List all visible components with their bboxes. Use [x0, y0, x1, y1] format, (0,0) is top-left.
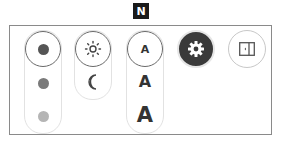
font-size-small-button[interactable]: A	[127, 31, 163, 67]
light-mode-button[interactable]	[75, 31, 111, 67]
shortcut-badge: N	[133, 3, 149, 19]
sun-icon	[84, 40, 102, 58]
moon-icon	[85, 73, 101, 91]
font-size-medium-button[interactable]: A	[127, 64, 163, 100]
settings-button[interactable]	[177, 30, 215, 68]
font-size-small-label: A	[141, 44, 150, 55]
color-dot-light	[38, 111, 49, 122]
font-size-large-label: A	[137, 105, 153, 126]
color-option-medium[interactable]	[25, 65, 61, 101]
sidebar-toggle-button[interactable]	[228, 30, 266, 68]
gear-icon	[187, 40, 205, 58]
dark-mode-button[interactable]	[75, 64, 111, 100]
color-dot-dark	[38, 44, 49, 55]
color-dot-medium	[38, 78, 49, 89]
font-size-medium-label: A	[139, 74, 151, 90]
color-option-light[interactable]	[25, 98, 61, 134]
font-size-large-button[interactable]: A	[127, 97, 163, 133]
display-settings-panel: A A A	[9, 25, 272, 135]
color-option-dark[interactable]	[25, 31, 61, 67]
sidebar-toggle-icon	[239, 42, 255, 56]
